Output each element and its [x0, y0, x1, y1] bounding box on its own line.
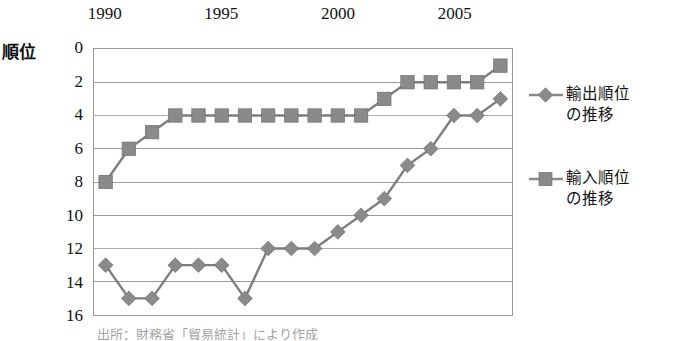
y-tick-label-14: 14 [57, 273, 83, 293]
legend-square-marker-icon [528, 169, 564, 189]
series-line-import [106, 66, 501, 182]
data-point-export-1994 [191, 258, 206, 273]
data-point-import-1990 [99, 175, 112, 188]
x-tick-label-2005: 2005 [438, 4, 472, 24]
plot-area [93, 48, 513, 316]
data-point-import-2004 [424, 76, 437, 89]
data-point-import-1992 [145, 125, 158, 138]
data-point-export-1990 [98, 258, 113, 273]
rank-trend-chart: 順位 1990199520002005 0246810121416 輸出順位 の… [0, 0, 679, 341]
y-tick-label-16: 16 [57, 306, 83, 326]
legend-entry-export[interactable]: 輸出順位 の推移 [528, 84, 676, 126]
y-tick-label-4: 4 [57, 105, 83, 125]
data-point-import-1996 [238, 109, 251, 122]
data-point-import-2003 [401, 76, 414, 89]
series-line-export [106, 99, 501, 299]
chart-legend: 輸出順位 の推移輸入順位 の推移 [528, 84, 676, 252]
y-axis-title: 順位 [2, 38, 36, 63]
legend-label: 輸入順位 の推移 [566, 168, 630, 210]
x-tick-label-2000: 2000 [321, 4, 355, 24]
data-point-import-2005 [447, 76, 460, 89]
data-point-export-1996 [238, 291, 253, 306]
data-point-import-1995 [215, 109, 228, 122]
source-footnote: 出所：財務省「貿易統計」により作成 [97, 324, 527, 340]
data-point-export-1992 [145, 291, 160, 306]
y-tick-label-12: 12 [57, 239, 83, 259]
data-point-export-1991 [121, 291, 136, 306]
data-point-import-2001 [354, 109, 367, 122]
data-point-import-2006 [470, 76, 483, 89]
y-tick-label-0: 0 [57, 38, 83, 58]
data-point-import-1994 [192, 109, 205, 122]
data-point-import-2007 [494, 59, 507, 72]
data-point-import-1999 [308, 109, 321, 122]
data-point-import-1997 [261, 109, 274, 122]
data-point-export-2005 [447, 108, 462, 123]
data-point-import-2000 [331, 109, 344, 122]
legend-label: 輸出順位 の推移 [566, 84, 630, 126]
data-point-import-2002 [378, 92, 391, 105]
data-point-import-1991 [122, 142, 135, 155]
y-tick-label-8: 8 [57, 172, 83, 192]
data-point-export-1997 [261, 241, 276, 256]
legend-entry-import[interactable]: 輸入順位 の推移 [528, 168, 676, 210]
legend-diamond-marker-icon [528, 85, 564, 105]
y-tick-label-2: 2 [57, 72, 83, 92]
x-tick-label-1990: 1990 [88, 4, 122, 24]
plot-svg [94, 49, 512, 315]
data-point-import-1993 [169, 109, 182, 122]
y-tick-label-6: 6 [57, 139, 83, 159]
data-point-export-1998 [284, 241, 299, 256]
y-tick-label-10: 10 [57, 206, 83, 226]
data-point-export-1993 [168, 258, 183, 273]
x-tick-label-1995: 1995 [204, 4, 238, 24]
data-point-import-1998 [285, 109, 298, 122]
data-point-export-1995 [214, 258, 229, 273]
